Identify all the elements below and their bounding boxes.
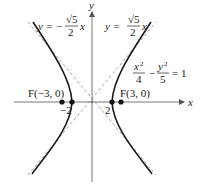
svg-text:−: − [149,67,155,79]
svg-text:x: x [79,20,85,32]
focus-right-point [118,99,123,104]
hyperbola-equation: x 2 4 − y 2 5 = 1 [133,60,186,85]
svg-text:√5: √5 [66,13,78,25]
vertex-right-label: 2 [105,104,111,116]
y-axis-label: y [88,0,94,11]
focus-right-label: F(3, 0) [120,87,150,100]
svg-text:2: 2 [130,26,136,38]
svg-text:= 1: = 1 [172,67,186,79]
svg-text:2: 2 [140,60,144,68]
hyperbola-diagram: x y F(−3, 0) F(3, 0) −2 2 y = − √5 2 x y… [0,0,200,185]
svg-text:4: 4 [136,73,142,85]
svg-text:2: 2 [164,60,168,68]
svg-text:2: 2 [68,26,74,38]
svg-text:y: y [157,60,163,72]
svg-text:y = −: y = − [37,20,63,32]
focus-left-label: F(−3, 0) [28,87,64,100]
origin-point [91,101,93,103]
x-axis-label: x [187,96,193,108]
vertex-left-label: −2 [60,104,72,116]
svg-text:x: x [141,20,147,32]
svg-text:x: x [133,60,139,72]
asymptote-left-label: y = − √5 2 x [37,13,85,38]
svg-text:y =: y = [104,20,120,32]
asymptote-right-label: y = √5 2 x [104,13,147,38]
svg-text:5: 5 [160,73,166,85]
svg-text:√5: √5 [128,13,140,25]
